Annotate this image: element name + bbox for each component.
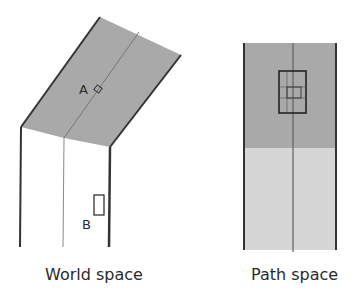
world-right-edge-vertical xyxy=(109,147,110,247)
path-lower-region xyxy=(243,148,337,250)
world-left-edge-vertical xyxy=(20,127,21,247)
path-upper-region xyxy=(243,43,337,148)
world-surface-sloped xyxy=(21,17,181,147)
point-a-label: A xyxy=(79,82,88,97)
point-b-marker xyxy=(94,195,104,215)
world-space-caption: World space xyxy=(45,265,143,284)
world-center-line-vertical xyxy=(63,138,64,247)
diagram-canvas: A B World space Path space xyxy=(0,0,354,296)
path-space-panel: Path space xyxy=(243,43,338,284)
world-space-panel: A B World space xyxy=(20,17,181,284)
path-space-caption: Path space xyxy=(251,265,338,284)
point-b-label: B xyxy=(82,217,91,232)
